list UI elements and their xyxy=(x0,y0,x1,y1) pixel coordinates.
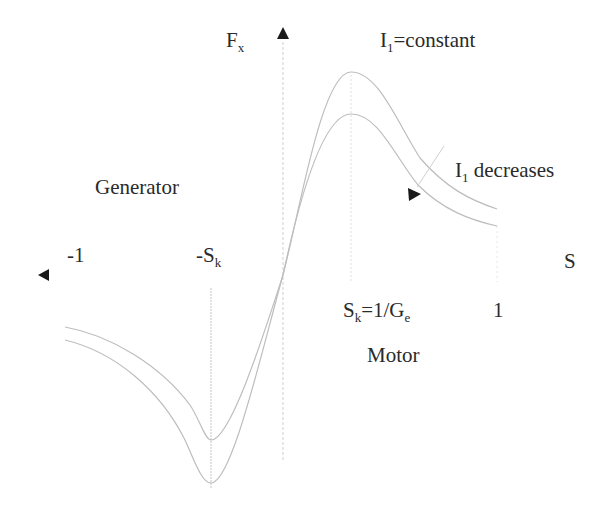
tick-neg-one: -1 xyxy=(67,245,85,266)
tick-sk-equation: Sk=1/Ge xyxy=(343,300,410,321)
i1-constant-label: I1=constant xyxy=(380,30,475,51)
diagram-canvas xyxy=(0,0,609,510)
generator-label: Generator xyxy=(95,177,179,198)
curve-i1-decreases xyxy=(65,114,497,483)
decrease-arrow-icon xyxy=(408,188,421,201)
motor-label: Motor xyxy=(367,345,420,366)
fx-axis-label: Fx xyxy=(226,30,244,51)
s-axis-left-arrow-icon xyxy=(38,269,49,281)
tick-pos-one: 1 xyxy=(493,300,504,321)
i1-decreases-label: I1 decreases xyxy=(455,160,554,181)
s-axis-label: S xyxy=(564,251,576,272)
curve-i1-constant xyxy=(65,72,497,440)
fx-axis-arrow-icon xyxy=(277,27,289,39)
decrease-indicator-line xyxy=(417,146,444,187)
tick-neg-sk: -Sk xyxy=(196,245,221,266)
